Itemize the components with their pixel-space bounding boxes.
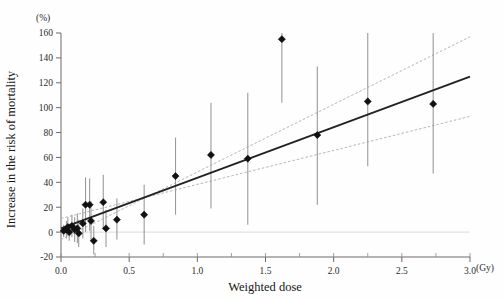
y-tick-label: -20 <box>40 252 53 262</box>
y-axis-title-wrapper: Increase in the risk of mortality <box>0 0 24 299</box>
data-point-marker <box>100 199 107 206</box>
ci-lower-band <box>61 116 470 218</box>
y-tick-label: 0 <box>48 228 53 238</box>
x-tick-label: 0.0 <box>55 266 67 276</box>
y-tick-label: 140 <box>39 53 54 63</box>
y-tick-label: 40 <box>44 178 54 188</box>
y-axis-title: Increase in the risk of mortality <box>4 71 19 228</box>
regression-line <box>61 77 470 229</box>
y-tick-label: 20 <box>44 203 54 213</box>
y-unit-label: (%) <box>36 13 50 24</box>
x-tick-label: 1.0 <box>191 266 203 276</box>
data-point-marker <box>86 201 93 208</box>
x-unit-label: (Gy) <box>476 263 494 274</box>
x-tick-label: 1.5 <box>260 266 272 276</box>
scatter-plot: -200204060801001201401600.00.51.01.52.02… <box>0 0 504 299</box>
data-point-marker <box>278 36 285 43</box>
x-tick-label: 3.0 <box>464 266 476 276</box>
x-tick-label: 2.0 <box>328 266 340 276</box>
data-point-marker <box>244 155 251 162</box>
y-tick-label: 60 <box>44 153 54 163</box>
x-tick-label: 0.5 <box>123 266 135 276</box>
y-tick-label: 160 <box>39 28 54 38</box>
chart-figure: -200204060801001201401600.00.51.01.52.02… <box>0 0 504 299</box>
data-point-marker <box>207 151 214 158</box>
data-point-marker <box>430 100 437 107</box>
y-tick-label: 80 <box>44 128 54 138</box>
y-tick-label: 100 <box>39 103 54 113</box>
x-tick-label: 2.5 <box>396 266 408 276</box>
y-tick-label: 120 <box>39 78 54 88</box>
ci-upper-band <box>61 37 470 240</box>
data-point-marker <box>113 216 120 223</box>
data-point-marker <box>141 211 148 218</box>
data-point-marker <box>172 173 179 180</box>
x-axis-title: Weighted dose <box>228 280 302 294</box>
data-point-marker <box>364 98 371 105</box>
